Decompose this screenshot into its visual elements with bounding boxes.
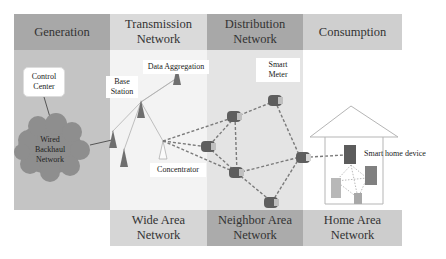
home-device-icon <box>354 193 362 204</box>
smart-meter-label: Smart Meter <box>256 58 300 82</box>
control-center-label: Control Center <box>23 67 65 97</box>
control-center-line2: Center <box>33 82 54 92</box>
backhaul-link <box>90 140 112 145</box>
backhaul-line3: Network <box>36 155 64 165</box>
concentrator-text: Concentrator <box>157 165 199 175</box>
tower-icon <box>120 148 128 167</box>
mesh-links <box>163 101 345 202</box>
network-graphics <box>0 0 446 259</box>
smart-meter-icon <box>229 167 244 178</box>
base-station-line2: Station <box>111 87 134 97</box>
smart-home-device-label: Smart home device <box>364 148 446 160</box>
smart-home-device-text: Smart home device <box>364 149 426 159</box>
home-device-icon <box>365 166 377 185</box>
smart-meter-icon <box>201 141 216 152</box>
home-device-icon <box>331 178 341 198</box>
smart-meter-icon <box>264 197 279 208</box>
base-station-label: Base Station <box>106 76 138 98</box>
smart-home-device-icon <box>344 145 356 164</box>
tower-icon <box>109 130 117 148</box>
smart-meter-line1: Smart <box>268 60 287 70</box>
smart-meter-line2: Meter <box>268 70 287 80</box>
concentrator-label: Concentrator <box>150 163 206 177</box>
smart-meter-icon <box>296 152 311 163</box>
smart-meter-icons <box>201 95 311 208</box>
base-station-line1: Base <box>114 77 130 87</box>
smart-meter-icon <box>227 111 242 122</box>
backhaul-line2: Backhaul <box>35 145 65 155</box>
backhaul-line1: Wired <box>40 135 60 145</box>
data-aggregation-label: Data Aggregation <box>143 60 209 74</box>
concentrator-tower-icon <box>159 141 167 159</box>
control-center-line1: Control <box>32 72 56 82</box>
wired-backhaul-label: Wired Backhaul Network <box>25 132 75 168</box>
data-aggregation-text: Data Aggregation <box>148 62 205 72</box>
smart-meter-icon <box>268 95 283 106</box>
